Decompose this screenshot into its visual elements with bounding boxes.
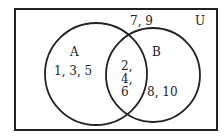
set-a-only-elements: 1, 3, 5 — [54, 65, 92, 78]
venn-diagram — [0, 0, 224, 139]
set-b-only-elements: 8, 10 — [147, 86, 178, 99]
outside-elements: 7, 9 — [130, 15, 153, 28]
set-a-label: A — [70, 46, 79, 59]
intersection-line-3: 6 — [121, 86, 129, 99]
set-b-label: B — [152, 46, 161, 59]
universe-label: U — [195, 15, 205, 28]
